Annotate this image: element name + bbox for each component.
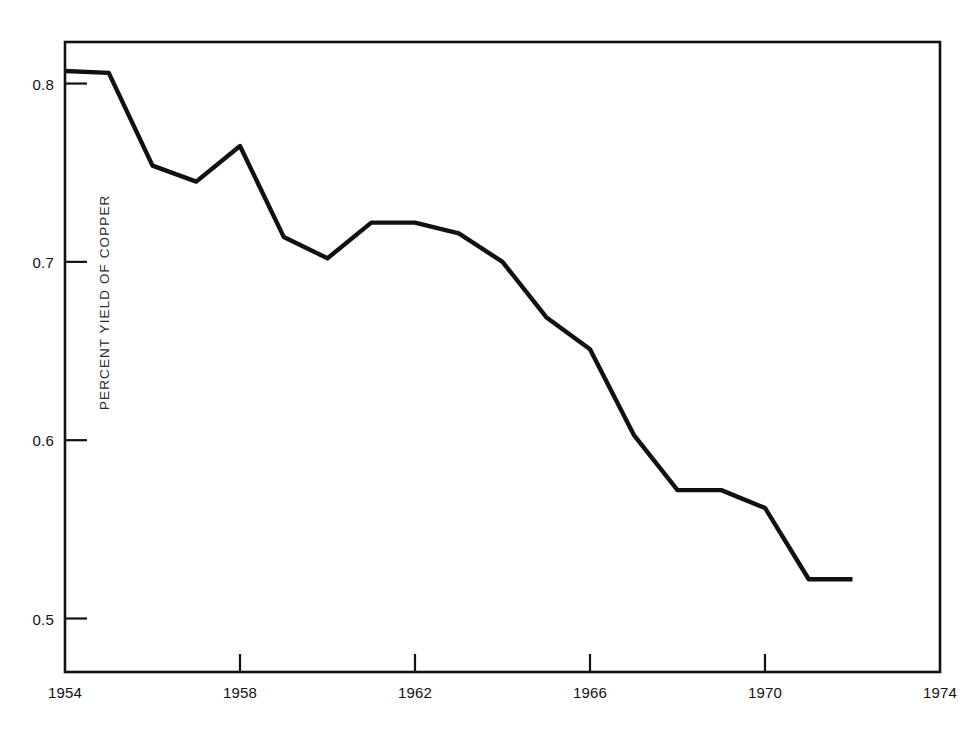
x-tick-label: 1974 [923,684,957,701]
x-tick-label: 1966 [573,684,607,701]
x-tick-label: 1962 [398,684,432,701]
y-axis-title: PERCENT YIELD OF COPPER [97,195,112,410]
y-tick-label: 0.7 [12,253,54,270]
data-series-line [65,71,853,579]
line-chart-plot [0,0,972,729]
chart-figure: 0.50.60.70.8 195419581962196619701974 PE… [0,0,972,729]
y-tick-label: 0.5 [12,610,54,627]
y-tick-label: 0.8 [12,75,54,92]
x-tick-label: 1954 [48,684,82,701]
y-axis-ticks [65,84,87,619]
y-tick-label: 0.6 [12,432,54,449]
x-tick-label: 1970 [748,684,782,701]
x-axis-ticks [240,654,765,672]
x-tick-label: 1958 [223,684,257,701]
